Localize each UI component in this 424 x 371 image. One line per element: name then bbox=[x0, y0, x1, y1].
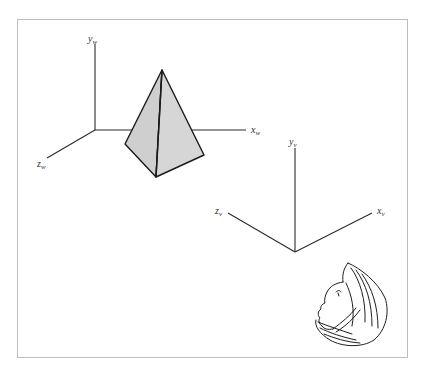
viewing-x-axis bbox=[295, 213, 372, 252]
viewing-z-axis bbox=[228, 213, 295, 252]
world-z-axis bbox=[47, 130, 95, 158]
viewer-head-icon bbox=[316, 263, 387, 346]
world-x-label: xw bbox=[250, 124, 260, 137]
diagram-canvas: yw xw zw yv xv zv bbox=[0, 0, 424, 371]
world-z-label: zw bbox=[36, 158, 46, 171]
viewing-y-label: yv bbox=[288, 136, 297, 149]
viewing-z-label: zv bbox=[214, 205, 223, 218]
pyramid-right-face bbox=[156, 70, 204, 177]
viewing-axes: yv xv zv bbox=[214, 136, 385, 252]
world-y-label: yw bbox=[87, 33, 97, 46]
viewing-x-label: xv bbox=[376, 205, 385, 218]
pyramid-object bbox=[125, 70, 204, 177]
